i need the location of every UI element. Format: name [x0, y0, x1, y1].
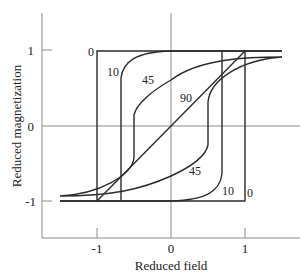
- label-curve-0-top: 0: [88, 45, 94, 59]
- y-axis-title: Reduced magnetization: [9, 64, 24, 187]
- x-tick-label-1: 1: [242, 241, 249, 256]
- x-axis-title: Reduced field: [135, 258, 208, 273]
- label-curve-10-top: 10: [107, 65, 119, 79]
- hysteresis-chart: 1 0 -1 -1 0 1 Reduced field Reduced magn…: [0, 0, 306, 276]
- y-tick-label-neg1: -1: [25, 194, 36, 209]
- label-curve-0-bottom: 0: [247, 186, 253, 200]
- y-tick-label-0: 0: [28, 119, 35, 134]
- y-tick-label-1: 1: [28, 43, 35, 58]
- label-curve-90: 90: [180, 91, 192, 105]
- x-tick-label-neg1: -1: [92, 241, 103, 256]
- x-tick-label-0: 0: [168, 241, 175, 256]
- label-curve-10-bottom: 10: [222, 184, 234, 198]
- label-curve-45-top: 45: [142, 73, 154, 87]
- label-curve-45-bottom: 45: [189, 164, 201, 178]
